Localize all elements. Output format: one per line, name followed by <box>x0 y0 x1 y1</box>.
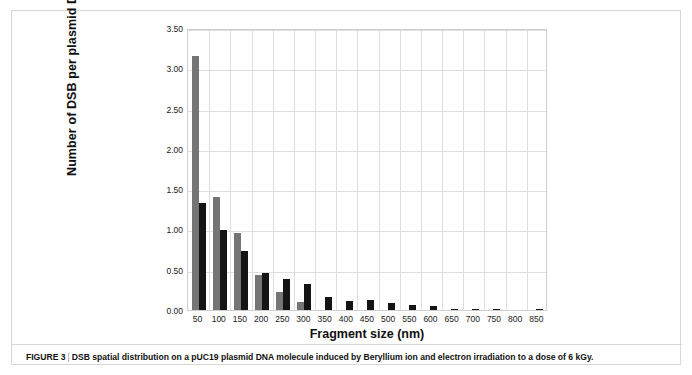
bar <box>192 56 199 310</box>
figure-frame: Number of DSB per plasmid DNA molecule 0… <box>11 10 681 365</box>
y-axis-tick: 1.50 <box>151 185 183 195</box>
bar <box>276 292 283 310</box>
x-axis-tick-labels: 5010015020025030035040045050055060065070… <box>187 313 547 327</box>
x-axis-tick: 250 <box>272 313 293 327</box>
bar <box>304 284 311 310</box>
bar <box>367 300 374 310</box>
y-axis-tick-labels: 0.000.501.001.502.002.503.003.50 <box>151 29 183 311</box>
bar <box>255 275 262 310</box>
bar <box>325 297 332 310</box>
y-axis-tick: 0.00 <box>151 306 183 316</box>
bar-group <box>483 30 504 310</box>
plot-area <box>187 29 547 311</box>
bar <box>472 309 479 310</box>
x-axis-tick: 450 <box>356 313 377 327</box>
x-axis-tick: 50 <box>187 313 208 327</box>
y-axis-tick: 0.50 <box>151 266 183 276</box>
bar <box>536 309 543 310</box>
bar-group <box>399 30 420 310</box>
x-axis-tick: 800 <box>505 313 526 327</box>
bar-group <box>230 30 251 310</box>
bar <box>283 279 290 310</box>
bar <box>234 233 241 310</box>
x-axis-tick: 350 <box>314 313 335 327</box>
x-axis-tick: 300 <box>293 313 314 327</box>
bar-group <box>441 30 462 310</box>
x-axis-tick: 400 <box>335 313 356 327</box>
x-axis-title: Fragment size (nm) <box>187 327 547 341</box>
x-axis-tick: 600 <box>420 313 441 327</box>
bar-group <box>357 30 378 310</box>
x-axis-tick: 700 <box>462 313 483 327</box>
bar-group <box>525 30 546 310</box>
bar <box>220 230 227 310</box>
bar <box>213 197 220 310</box>
bar-group <box>209 30 230 310</box>
bar-group <box>251 30 272 310</box>
bar <box>430 306 437 310</box>
bar <box>493 309 500 310</box>
bar-group <box>293 30 314 310</box>
figure-caption: FIGURE 3|DSB spatial distribution on a p… <box>26 351 672 363</box>
x-axis-tick: 100 <box>208 313 229 327</box>
bar <box>409 305 416 310</box>
bar <box>388 303 395 310</box>
x-axis-tick: 550 <box>399 313 420 327</box>
bar <box>346 301 353 310</box>
bar-group <box>462 30 483 310</box>
y-axis-tick: 2.00 <box>151 145 183 155</box>
bar-group <box>188 30 209 310</box>
x-axis-tick: 750 <box>483 313 504 327</box>
bar-group <box>420 30 441 310</box>
figure-root: Number of DSB per plasmid DNA molecule 0… <box>0 0 692 375</box>
bar <box>451 309 458 310</box>
bar <box>199 203 206 310</box>
chart-area: Number of DSB per plasmid DNA molecule 0… <box>12 11 682 333</box>
bar-group <box>272 30 293 310</box>
x-axis-tick: 650 <box>441 313 462 327</box>
x-axis-tick: 850 <box>526 313 547 327</box>
y-axis-tick: 3.00 <box>151 64 183 74</box>
bar-group <box>335 30 356 310</box>
y-axis-tick: 2.50 <box>151 105 183 115</box>
x-axis-tick: 500 <box>378 313 399 327</box>
bar-group <box>504 30 525 310</box>
bar <box>262 273 269 310</box>
y-axis-tick: 3.50 <box>151 24 183 34</box>
caption-text: DSB spatial distribution on a pUC19 plas… <box>72 352 594 362</box>
x-axis-tick: 200 <box>251 313 272 327</box>
bar-series-layer <box>188 30 546 310</box>
bar <box>297 302 304 310</box>
x-axis-tick: 150 <box>229 313 250 327</box>
bar <box>241 251 248 310</box>
caption-label: FIGURE 3 <box>26 352 66 362</box>
caption-divider <box>12 344 682 345</box>
bar-group <box>314 30 335 310</box>
bar-group <box>378 30 399 310</box>
y-axis-title: Number of DSB per plasmid DNA molecule <box>63 0 81 176</box>
y-axis-tick: 1.00 <box>151 225 183 235</box>
